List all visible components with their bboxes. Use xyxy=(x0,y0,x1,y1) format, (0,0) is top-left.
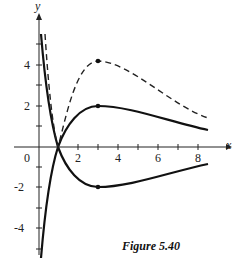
y-axis-arrow-icon xyxy=(36,13,42,20)
dashed-curve xyxy=(45,34,208,147)
y-tick-label: 2 xyxy=(24,100,30,112)
chart-plot xyxy=(0,0,237,263)
x-tick-label: 8 xyxy=(195,152,201,164)
upper-solid-curve xyxy=(41,34,208,147)
y-tick-label: 4 xyxy=(24,59,30,71)
x-tick-label: 4 xyxy=(115,152,121,164)
figure-caption: Figure 5.40 xyxy=(122,239,180,254)
dashed-max-marker xyxy=(96,59,101,64)
y-tick-label: -2 xyxy=(14,181,24,193)
x-axis-label: x xyxy=(226,139,231,151)
x-tick-label: 6 xyxy=(155,152,161,164)
x-tick-label: 2 xyxy=(75,152,81,164)
x-tick-label-origin: 0 xyxy=(24,152,30,164)
lower-min-marker xyxy=(96,185,101,190)
upper-max-marker xyxy=(96,104,101,109)
y-axis-label: y xyxy=(35,0,40,12)
y-tick-label: -4 xyxy=(14,222,24,234)
